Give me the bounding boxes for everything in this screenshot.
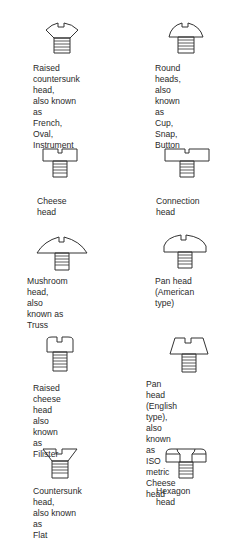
round-head-screw-icon — [166, 20, 206, 56]
countersunk-screw-icon — [40, 446, 80, 482]
mushroom-head-screw-icon — [34, 233, 90, 273]
raised-cheese-head-screw-icon — [44, 334, 76, 374]
connection-head-label: Connection head — [156, 196, 199, 218]
raised-countersunk-screw-icon — [42, 20, 82, 56]
hexagon-head-label: Hexagon head — [156, 486, 190, 508]
round-head-label: Round heads, also known as Cup, Snap, Bu… — [155, 63, 181, 151]
mushroom-head-label: Mushroom head, also known as Truss — [27, 276, 68, 331]
pan-head-english-screw-icon — [167, 335, 211, 375]
connection-head-screw-icon — [162, 146, 212, 182]
cheese-head-screw-icon — [40, 146, 80, 182]
cheese-head-label: Cheese head — [37, 196, 67, 218]
raised-countersunk-head-label: Raised countersunk head, also known as F… — [33, 63, 80, 151]
pan-head-american-screw-icon — [161, 230, 209, 270]
pan-head-american-label: Pan head (American type) — [155, 276, 194, 309]
hexagon-head-screw-icon — [163, 446, 209, 482]
countersunk-head-label: Countersunk head, also known as Flat — [33, 486, 82, 541]
